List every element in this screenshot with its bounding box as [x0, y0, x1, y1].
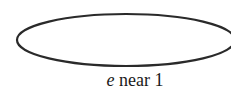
ellipse-caption: e near 1 [0, 70, 231, 91]
caption-variable: e [107, 70, 115, 90]
caption-text: near 1 [115, 70, 164, 90]
ellipse [17, 14, 231, 66]
